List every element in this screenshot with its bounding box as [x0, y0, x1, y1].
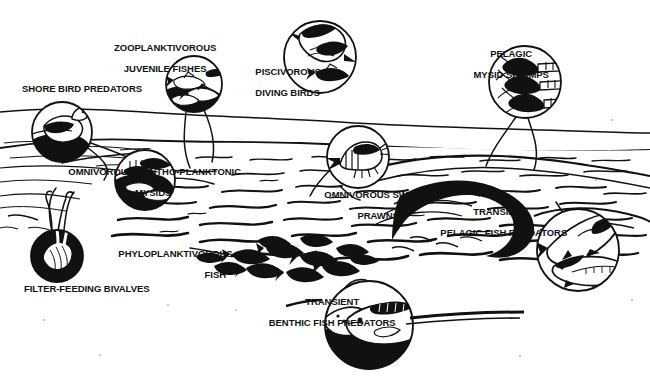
label-line-2: FISH	[205, 269, 226, 280]
label-line-2: PELAGIC FISH PREDATORS	[440, 227, 567, 238]
label-omnivorous-swimming-prawns: OMNIVOROUS SWIMMING PRAWNS	[314, 179, 432, 232]
label-line-2: MYSIDS	[135, 187, 171, 198]
label-filter-feeding-bivalves: FILTER-FEEDING BIVALVES	[24, 284, 150, 295]
label-shore-bird-predators: SHORE BIRD PREDATORS	[22, 84, 142, 95]
label-zooplanktivorous-juvenile-fishes: ZOOPLANKTIVOROUS JUVENILE FISHES	[100, 32, 220, 85]
label-line-1: OMNIVOROUS BENTHO-PLANKTONIC	[68, 166, 241, 177]
label-line-1: OMNIVOROUS SWIMMING	[324, 189, 442, 200]
label-pelagic-mysid-shrimps: PELAGIC MYSID SHRIMPS	[456, 38, 556, 91]
label-line-1: PISCIVOROUS	[255, 66, 320, 77]
label-line-1: ZOOPLANKTIVOROUS	[114, 42, 216, 53]
label-line-2: JUVENILE FISHES	[124, 63, 207, 74]
label-piscivorous-diving-birds: PISCIVOROUS DIVING BIRDS	[245, 56, 345, 109]
label-transient-benthic-fish-predators: TRANSIENT BENTHIC FISH PREDATORS	[258, 286, 396, 339]
label-line-2: PRAWNS	[357, 210, 398, 221]
label-line-2: BENTHIC FISH PREDATORS	[269, 317, 396, 328]
label-line-2: MYSID SHRIMPS	[473, 69, 548, 80]
label-line-1: TRANSIENT	[305, 296, 359, 307]
label-transient-pelagic-fish-predators: TRANSIENT PELAGIC FISH PREDATORS	[430, 196, 560, 249]
label-line-2: DIVING BIRDS	[255, 87, 319, 98]
food-web-figure: SHORE BIRD PREDATORS ZOOPLANKTIVOROUS JU…	[0, 0, 650, 382]
label-line-1: TRANSIENT	[473, 206, 527, 217]
label-line-1: PELAGIC	[490, 48, 532, 59]
label-omnivorous-bentho-planktonic-mysids: OMNIVOROUS BENTHO-PLANKTONIC MYSIDS	[58, 156, 238, 209]
label-line-1: PHYLOPLANKTIVOROUS	[118, 248, 232, 259]
